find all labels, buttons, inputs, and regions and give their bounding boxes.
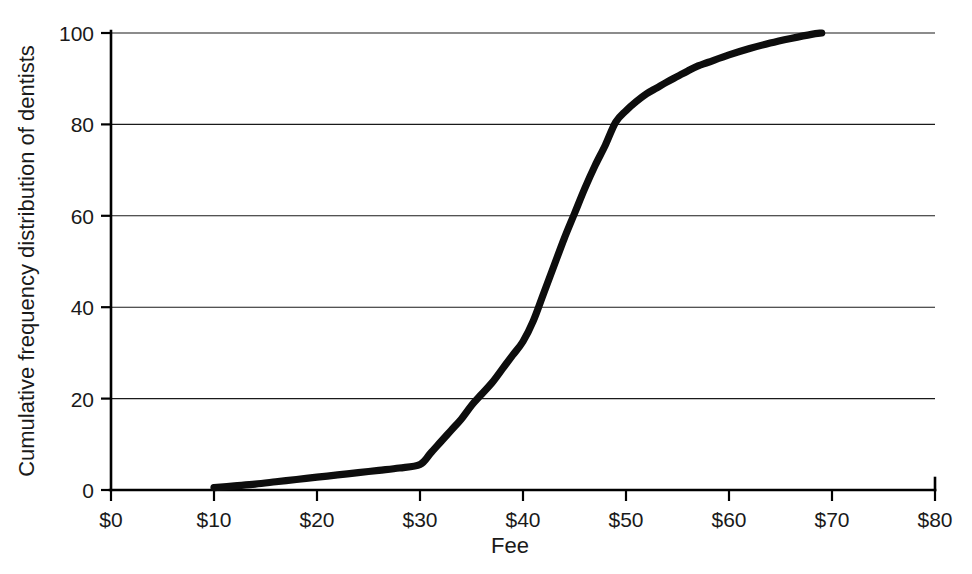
chart-background: [0, 0, 972, 574]
x-tick-label-20: $20: [299, 508, 334, 531]
chart-figure: 020406080100 $0$10$20$30$40$50$60$70$80 …: [0, 0, 972, 574]
x-tick-label-50: $50: [608, 508, 643, 531]
x-axis-title: Fee: [491, 533, 529, 558]
cumulative-frequency-chart: 020406080100 $0$10$20$30$40$50$60$70$80 …: [0, 0, 972, 574]
y-tick-label-40: 40: [71, 296, 94, 319]
x-tick-labels-group: $0$10$20$30$40$50$60$70$80: [99, 508, 952, 531]
y-tick-label-60: 60: [71, 205, 94, 228]
y-tick-label-20: 20: [71, 388, 94, 411]
x-tick-label-60: $60: [711, 508, 746, 531]
x-tick-label-30: $30: [402, 508, 437, 531]
y-tick-label-80: 80: [71, 113, 94, 136]
x-tick-label-70: $70: [814, 508, 849, 531]
x-tick-label-40: $40: [505, 508, 540, 531]
x-tick-label-0: $0: [99, 508, 122, 531]
x-tick-label-80: $80: [917, 508, 952, 531]
y-tick-label-100: 100: [59, 22, 94, 45]
y-tick-label-0: 0: [82, 479, 94, 502]
x-tick-label-10: $10: [196, 508, 231, 531]
y-axis-title: Cumulative frequency distribution of den…: [14, 45, 39, 477]
